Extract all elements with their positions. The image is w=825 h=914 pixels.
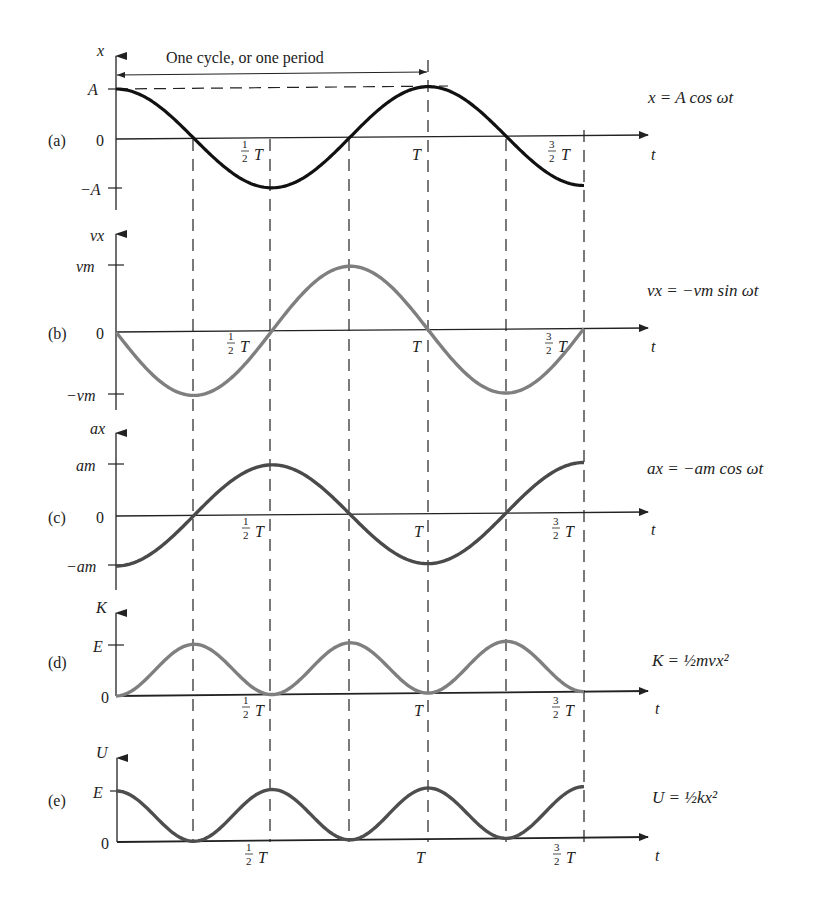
panel-e-tick-zero-label: 0 xyxy=(101,835,109,852)
panel-d-curve xyxy=(116,641,584,696)
panel-d-tick-zero-label: 0 xyxy=(101,689,109,706)
panel-c-tick-top-label: am xyxy=(76,457,96,474)
panel-d-equation: K = ½mvx² xyxy=(651,651,729,670)
panel-c-T-label: T xyxy=(414,523,424,540)
panel-d-three-half-T-denominator: 2 xyxy=(553,708,559,720)
panel-b-half-T-label: T xyxy=(240,338,250,355)
panel-a-curve xyxy=(116,87,584,188)
panel-c-tag: (c) xyxy=(48,509,66,527)
panel-e-T-label: T xyxy=(416,849,426,866)
panel-b-half-T-denominator: 2 xyxy=(228,344,234,356)
panel-a-equation: x = A cos ωt xyxy=(647,88,734,107)
period-arrow xyxy=(117,72,427,75)
panel-a-half-T-denominator: 2 xyxy=(242,152,248,164)
panel-d-t-axis xyxy=(116,691,648,696)
panel-b-tick-zero-label: 0 xyxy=(96,325,104,342)
panel-b-three-half-T-label: T xyxy=(558,338,568,355)
panel-d-tag: (d) xyxy=(48,654,67,672)
amplitude-dashed-line xyxy=(116,86,448,89)
period-label: One cycle, or one period xyxy=(166,49,324,67)
panel-c-tick-bottom-label: −am xyxy=(66,558,96,575)
panel-b-equation: vx = −vm sin ωt xyxy=(647,281,760,300)
panel-c: ax (c) am 0 −am ax = −am cos ωt t xyxy=(48,420,764,590)
panel-d-T-label: T xyxy=(414,702,424,719)
panel-b-three-half-T-denominator: 2 xyxy=(546,344,552,356)
panel-a-half-T-label: T xyxy=(254,146,264,163)
panel-e-tag: (e) xyxy=(48,792,66,810)
panel-b-T-label: T xyxy=(412,338,422,355)
panel-e-y-label: U xyxy=(96,744,109,761)
panel-a-tick-zero-label: 0 xyxy=(96,132,104,149)
panel-d-t-label: t xyxy=(655,700,660,717)
panel-e-three-half-T-label: T xyxy=(566,849,576,866)
panel-e-curve xyxy=(116,787,584,842)
panel-b: vx (b) vm 0 −vm vx = −vm sin ωt t xyxy=(48,227,760,410)
panel-a-half-T-numerator: 1 xyxy=(242,138,248,150)
panel-c-half-T-denominator: 2 xyxy=(243,529,249,541)
panel-c-half-T-label: T xyxy=(255,523,265,540)
panel-e: U (e) E 0 U = ½kx² t xyxy=(48,744,718,864)
guide-lines xyxy=(193,60,584,842)
panel-c-half-T-numerator: 1 xyxy=(243,515,249,527)
panel-d-half-T-label: T xyxy=(255,702,265,719)
panel-d-half-T-numerator: 1 xyxy=(243,694,249,706)
panel-d-tick-top-label: E xyxy=(92,638,103,655)
panel-e-three-half-T-numerator: 3 xyxy=(554,841,560,853)
panel-c-y-label: ax xyxy=(90,420,105,437)
panel-b-tick-bottom-label: −vm xyxy=(66,387,95,404)
panel-b-tag: (b) xyxy=(48,325,67,343)
panel-e-half-T-numerator: 1 xyxy=(246,841,252,853)
panel-e-half-T-label: T xyxy=(258,849,268,866)
panel-d-half-T-denominator: 2 xyxy=(243,708,249,720)
panel-e-half-T-denominator: 2 xyxy=(246,855,252,867)
time-tick-labels: 12TT32T12TT32T12TT32T12TT32T12TT32T xyxy=(227,138,576,867)
panel-b-t-axis xyxy=(116,328,648,332)
panel-e-equation: U = ½kx² xyxy=(652,788,718,807)
panel-c-t-label: t xyxy=(651,521,656,538)
panel-c-three-half-T-denominator: 2 xyxy=(553,529,559,541)
panel-b-three-half-T-numerator: 3 xyxy=(546,330,552,342)
panel-c-three-half-T-numerator: 3 xyxy=(553,515,559,527)
panel-a-t-label: t xyxy=(651,146,656,163)
panel-b-half-T-numerator: 1 xyxy=(228,330,234,342)
panel-c-curve xyxy=(116,462,584,566)
panel-a-tag: (a) xyxy=(48,132,66,150)
panel-d-three-half-T-label: T xyxy=(565,702,575,719)
panel-b-y-label: vx xyxy=(90,227,104,244)
panel-a-three-half-T-denominator: 2 xyxy=(549,152,555,164)
panel-a-three-half-T-numerator: 3 xyxy=(549,138,555,150)
panel-d-three-half-T-numerator: 3 xyxy=(553,694,559,706)
shm-graphs-figure: One cycle, or one period x (a) A 0 −A x … xyxy=(0,0,825,914)
panel-a-T-label: T xyxy=(412,146,422,163)
panel-a: One cycle, or one period x (a) A 0 −A x … xyxy=(48,42,734,210)
panel-e-three-half-T-denominator: 2 xyxy=(554,855,560,867)
panel-d: K (d) E 0 K = ½mvx² t xyxy=(48,599,729,717)
panel-e-tick-top-label: E xyxy=(92,784,103,801)
panel-b-tick-top-label: vm xyxy=(76,258,95,275)
panel-c-equation: ax = −am cos ωt xyxy=(647,459,764,478)
panel-a-tick-bottom-label: −A xyxy=(80,181,101,198)
panel-a-tick-top-label: A xyxy=(87,81,98,98)
panel-d-y-label: K xyxy=(95,599,108,616)
panel-e-t-label: t xyxy=(655,847,660,864)
panel-a-three-half-T-label: T xyxy=(561,146,571,163)
panel-c-three-half-T-label: T xyxy=(565,523,575,540)
panel-b-t-label: t xyxy=(651,338,656,355)
panel-c-tick-zero-label: 0 xyxy=(96,509,104,526)
panel-a-y-label: x xyxy=(96,42,104,59)
